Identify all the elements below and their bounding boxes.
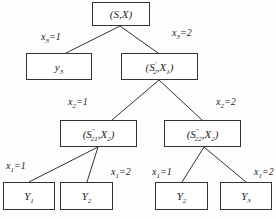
edge-label-x1-1-a: x1=1 — [6, 160, 26, 171]
leaf-node-Y3: Y3 — [220, 182, 272, 210]
edge-label-x3-2: x3=2 — [172, 27, 192, 38]
edge-label-x3-1: x3=1 — [41, 31, 61, 42]
leaf-node-Y2-right: Y2 — [155, 182, 208, 210]
edge-label-x1-2-b: x1=2 — [254, 166, 274, 177]
leaf-node-Y2-left: Y2 — [60, 182, 113, 210]
edge-label-x1-2-a: x1=2 — [111, 166, 131, 177]
node-s2-x1: (S′2,X1) — [121, 53, 198, 80]
edge-label-x2-1: x2=1 — [68, 96, 88, 107]
root-node: (S,X) — [92, 2, 150, 26]
edge-label-x2-2: x2=2 — [216, 96, 236, 107]
leaf-node-y3: y3 — [26, 53, 92, 80]
edge-label-x1-1-b: x1=1 — [152, 166, 172, 177]
node-s21-x2: (S″21,X2) — [60, 120, 137, 147]
leaf-node-Y1: Y1 — [3, 182, 55, 210]
node-s22-x2: (S″22,X2) — [164, 120, 241, 147]
